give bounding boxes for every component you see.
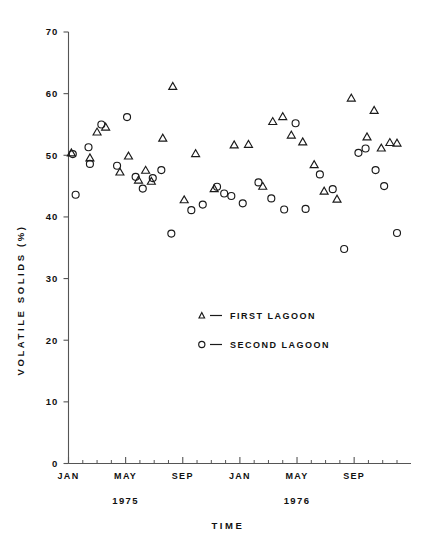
x-tick-label: SEP: [343, 471, 365, 481]
data-point-triangle: [86, 154, 94, 161]
triangle-marker-icon: [199, 313, 205, 318]
data-point-circle: [362, 145, 369, 152]
data-point-triangle: [93, 128, 101, 135]
data-point-circle: [281, 206, 288, 213]
data-point-triangle: [279, 113, 287, 120]
data-point-circle: [381, 183, 388, 190]
legend-label-first-lagoon: FIRST LAGOON: [230, 311, 316, 321]
data-point-circle: [255, 179, 262, 186]
x-tick-label: MAY: [285, 471, 308, 481]
data-point-triangle: [192, 150, 200, 157]
data-point-triangle: [287, 131, 295, 138]
x-tick-label: MAY: [114, 471, 137, 481]
y-tick-label: 50: [46, 150, 59, 161]
data-point-circle: [228, 192, 235, 199]
year-label: 1975: [112, 495, 139, 506]
circle-marker-icon: [199, 341, 205, 347]
y-tick-label: 40: [46, 211, 59, 222]
data-point-circle: [239, 200, 246, 207]
y-tick-label: 20: [46, 335, 59, 346]
y-tick-label: 60: [46, 88, 59, 99]
data-point-circle: [316, 171, 323, 178]
data-point-circle: [372, 167, 379, 174]
series-first-lagoon: [67, 82, 401, 202]
x-axis-year-labels: 19751976: [112, 495, 310, 506]
data-point-triangle: [363, 133, 371, 140]
y-tick-label: 70: [46, 26, 59, 37]
data-point-triangle: [370, 106, 378, 113]
x-tick-label: JAN: [229, 471, 251, 481]
data-point-circle: [221, 190, 228, 197]
x-tick-label: JAN: [58, 471, 80, 481]
y-axis-tick-labels: 010203040506070: [46, 26, 59, 469]
data-point-circle: [114, 162, 121, 169]
y-tick-label: 0: [52, 458, 58, 469]
data-point-triangle: [393, 139, 401, 146]
data-point-triangle: [142, 166, 150, 173]
legend-entry-first-lagoon: FIRST LAGOON: [199, 311, 316, 321]
x-tick-label: SEP: [172, 471, 194, 481]
year-label: 1976: [284, 495, 311, 506]
axes: [69, 32, 412, 464]
data-point-triangle: [310, 161, 318, 168]
y-tick-label: 10: [46, 396, 59, 407]
data-point-circle: [292, 120, 299, 127]
data-point-circle: [355, 149, 362, 156]
data-point-triangle: [347, 94, 355, 101]
data-point-triangle: [299, 138, 307, 145]
data-point-circle: [188, 207, 195, 214]
volatile-solids-scatter-chart: 010203040506070 JANMAYSEPJANMAYSEP 19751…: [0, 0, 440, 553]
data-point-circle: [158, 167, 165, 174]
data-point-circle: [268, 195, 275, 202]
data-point-circle: [168, 230, 175, 237]
legend-label-second-lagoon: SECOND LAGOON: [230, 340, 330, 350]
data-point-circle: [98, 121, 105, 128]
data-point-circle: [139, 185, 146, 192]
data-point-circle: [86, 160, 93, 167]
y-axis-title: VOLATILE SOLIDS (%): [15, 224, 26, 375]
x-axis-title: TIME: [211, 520, 244, 531]
data-point-circle: [329, 186, 336, 193]
series-second-lagoon: [69, 114, 400, 253]
data-point-triangle: [333, 195, 341, 202]
data-point-triangle: [180, 196, 188, 203]
data-point-triangle: [230, 141, 238, 148]
data-point-triangle: [377, 144, 385, 151]
y-axis-ticks: [64, 32, 69, 464]
data-point-triangle: [269, 118, 277, 125]
data-point-triangle: [124, 152, 132, 159]
legend-entry-second-lagoon: SECOND LAGOON: [199, 340, 330, 350]
data-point-circle: [72, 191, 79, 198]
data-point-circle: [302, 205, 309, 212]
y-tick-label: 30: [46, 273, 59, 284]
data-point-triangle: [159, 134, 167, 141]
x-axis-tick-labels: JANMAYSEPJANMAYSEP: [58, 471, 366, 481]
data-point-triangle: [320, 187, 328, 194]
data-point-circle: [85, 144, 92, 151]
data-point-circle: [199, 201, 206, 208]
chart-figure: 010203040506070 JANMAYSEPJANMAYSEP 19751…: [0, 0, 440, 553]
chart-legend: FIRST LAGOON SECOND LAGOON: [199, 311, 330, 350]
data-point-triangle: [169, 82, 177, 89]
data-point-triangle: [244, 140, 252, 147]
data-point-circle: [341, 245, 348, 252]
data-point-circle: [124, 114, 131, 121]
data-point-triangle: [102, 123, 110, 130]
data-point-circle: [394, 229, 401, 236]
data-point-triangle: [386, 139, 394, 146]
